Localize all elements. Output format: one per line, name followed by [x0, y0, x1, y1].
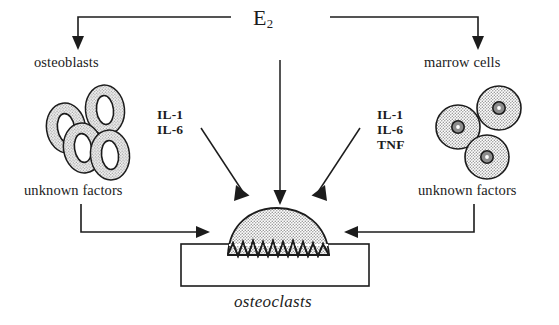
arrow-e2-to-marrow-cells-line — [330, 17, 478, 38]
diagram-graphics — [0, 0, 559, 325]
label-osteoblasts: osteoblasts — [34, 54, 99, 70]
osteoclast-cell — [228, 208, 329, 256]
osteoclast-dome-body — [228, 208, 329, 255]
label-cytokines-left: IL-1 IL-6 — [157, 107, 183, 137]
arrow-e2-to-osteoblasts-line — [78, 17, 231, 38]
cytokine-il1-right: IL-1 — [377, 107, 405, 122]
arrow-unknown-right-line — [356, 204, 474, 232]
arrowhead-unknown-left — [196, 226, 210, 238]
marrow-cell — [477, 86, 521, 130]
marrow-cell — [465, 135, 509, 179]
arrowhead-e2-to-marrow-cells — [472, 36, 484, 50]
label-unknown-factors-left: unknown factors — [24, 182, 123, 198]
e2-subscript: 2 — [267, 17, 273, 31]
cytokine-il1-left: IL-1 — [157, 107, 183, 122]
label-cytokines-right: IL-1 IL-6 TNF — [377, 107, 405, 152]
arrow-cytokines-right-line — [318, 128, 360, 192]
label-osteoclasts: osteoclasts — [234, 292, 312, 311]
label-unknown-factors-right: unknown factors — [418, 182, 517, 198]
cytokine-il6-left: IL-6 — [157, 122, 183, 137]
arrow-unknown-left-line — [81, 204, 198, 232]
figure-canvas: E2 osteoblasts marrow cells IL-1 IL-6 IL… — [0, 0, 559, 325]
cytokine-il6-right: IL-6 — [377, 122, 405, 137]
cytokine-tnf-right: TNF — [377, 137, 405, 152]
label-marrow-cells: marrow cells — [424, 54, 501, 70]
e2-base: E — [253, 5, 267, 30]
marrow-cell-cluster — [436, 86, 521, 179]
arrowhead-cytokines-left — [234, 185, 250, 201]
osteoblast-cell-cluster — [43, 83, 132, 182]
arrowhead-e2-to-osteoblasts — [72, 36, 84, 50]
page-title-e2: E2 — [253, 6, 273, 31]
arrow-cytokines-left-line — [201, 128, 243, 192]
arrowhead-unknown-right — [344, 226, 358, 238]
arrowhead-e2-to-osteoclasts — [274, 190, 287, 205]
arrowhead-cytokines-right — [312, 185, 328, 201]
